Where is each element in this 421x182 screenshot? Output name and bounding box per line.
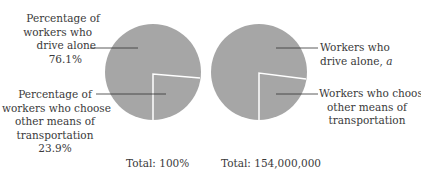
label-line: Percentage of (2, 88, 108, 102)
label-value: 76.1% (20, 53, 100, 67)
label-line: Workers who (320, 41, 392, 55)
label-line: workers who choose (2, 102, 108, 116)
right-label-other-means: Workers who choose other means of transp… (319, 87, 415, 128)
label-text: drive alone, (320, 55, 386, 67)
right-pie (211, 24, 318, 122)
label-line: other means of (2, 115, 108, 129)
right-total: Total: 154,000,000 (221, 157, 321, 169)
label-line: Workers who choose (319, 87, 415, 101)
label-line: transportation (2, 129, 108, 143)
label-value: 23.9% (2, 142, 108, 156)
label-line: workers who (20, 26, 100, 40)
left-label-drive-alone: Percentage of workers who drive alone 76… (20, 12, 100, 66)
variable-a: a (386, 55, 392, 67)
left-total: Total: 100% (126, 157, 189, 169)
label-line: drive alone (20, 39, 100, 53)
right-label-drive-alone: Workers who drive alone, a (320, 41, 392, 68)
label-line: drive alone, a (320, 55, 392, 69)
label-line: other means of (319, 101, 415, 115)
left-label-other-means: Percentage of workers who choose other m… (2, 88, 108, 156)
label-line: transportation (319, 114, 415, 128)
label-line: Percentage of (20, 12, 100, 26)
